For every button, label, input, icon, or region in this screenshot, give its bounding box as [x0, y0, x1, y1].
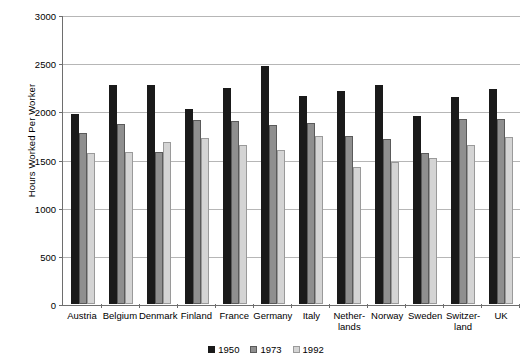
y-tick-label: 3000 — [35, 11, 56, 22]
x-tick-mark — [215, 304, 216, 308]
bar — [201, 138, 209, 304]
bar — [451, 97, 459, 304]
y-tick-mark — [59, 257, 63, 258]
bar-groups — [64, 16, 520, 304]
bar — [421, 153, 429, 304]
bar-group — [254, 16, 292, 304]
x-tick-mark — [253, 304, 254, 308]
x-tick-mark — [291, 304, 292, 308]
bar-group — [482, 16, 520, 304]
x-axis-label: Belgium — [101, 310, 139, 332]
bar-group — [330, 16, 368, 304]
legend-item: 1973 — [250, 344, 281, 355]
bar — [497, 119, 505, 304]
bar — [315, 136, 323, 304]
bar — [299, 96, 307, 304]
x-axis-labels: AustriaBelgiumDenmarkFinlandFranceGerman… — [63, 310, 520, 332]
bar — [307, 123, 315, 304]
legend-item: 1992 — [293, 344, 324, 355]
x-axis-label: Sweden — [406, 310, 444, 332]
y-tick-mark — [59, 209, 63, 210]
x-tick-mark — [405, 304, 406, 308]
x-axis-label: France — [215, 310, 253, 332]
x-tick-mark — [139, 304, 140, 308]
bar — [277, 150, 285, 304]
x-tick-mark — [177, 304, 178, 308]
bar — [87, 153, 95, 304]
bar — [429, 158, 437, 304]
bar — [193, 120, 201, 304]
series-0-swatch — [208, 346, 215, 353]
x-tick-mark — [101, 304, 102, 308]
x-axis-label: Norway — [368, 310, 406, 332]
bar — [261, 66, 269, 304]
y-tick-label: 500 — [40, 251, 56, 262]
y-tick-label: 2000 — [35, 107, 56, 118]
bar — [413, 116, 421, 304]
y-tick-mark — [59, 161, 63, 162]
bar — [71, 114, 79, 304]
series-1-swatch — [250, 346, 257, 353]
y-tick-label: 0 — [51, 300, 56, 311]
bar — [125, 152, 133, 304]
bar-chart-figure: Hours Worked Per Worker 0500100015002000… — [0, 0, 532, 364]
y-tick-mark — [59, 112, 63, 113]
bar — [353, 167, 361, 304]
x-tick-mark — [329, 304, 330, 308]
x-tick-mark — [481, 304, 482, 308]
bar-group — [140, 16, 178, 304]
bar — [467, 145, 475, 304]
bar — [383, 139, 391, 304]
bar — [109, 85, 117, 304]
y-tick-mark — [59, 16, 63, 17]
bar — [269, 125, 277, 304]
x-axis-label: Nether- lands — [330, 310, 368, 332]
x-tick-mark — [443, 304, 444, 308]
bar-group — [444, 16, 482, 304]
legend-label: 1973 — [260, 344, 281, 355]
x-axis-label: Austria — [63, 310, 101, 332]
x-axis-label: Italy — [292, 310, 330, 332]
chart-legend: 195019731992 — [0, 344, 532, 355]
bar — [239, 145, 247, 304]
bar — [505, 137, 513, 304]
bar-group — [292, 16, 330, 304]
bar — [223, 88, 231, 304]
x-tick-mark — [519, 304, 520, 308]
bar — [79, 133, 87, 304]
bar-group — [64, 16, 102, 304]
y-tick-label: 1500 — [35, 155, 56, 166]
x-axis-label: UK — [482, 310, 520, 332]
bar — [345, 136, 353, 304]
y-tick-label: 2500 — [35, 59, 56, 70]
series-2-swatch — [293, 346, 300, 353]
legend-item: 1950 — [208, 344, 239, 355]
bar-group — [406, 16, 444, 304]
y-tick-mark — [59, 64, 63, 65]
y-tick-label: 1000 — [35, 203, 56, 214]
bar — [147, 85, 155, 304]
y-tick-mark — [59, 305, 63, 306]
bar — [489, 89, 497, 304]
bar-group — [216, 16, 254, 304]
legend-label: 1950 — [218, 344, 239, 355]
x-axis-label: Denmark — [139, 310, 178, 332]
bar-group — [102, 16, 140, 304]
x-axis-label: Finland — [177, 310, 215, 332]
bar — [391, 162, 399, 304]
bar — [185, 109, 193, 304]
x-tick-mark — [367, 304, 368, 308]
bar — [231, 121, 239, 304]
bar-group — [368, 16, 406, 304]
legend-label: 1992 — [303, 344, 324, 355]
bar — [375, 85, 383, 304]
plot-area: 050010001500200025003000 — [62, 16, 520, 306]
bar-group — [178, 16, 216, 304]
x-axis-label: Switzer- land — [444, 310, 482, 332]
bar — [117, 124, 125, 304]
x-axis-label: Germany — [253, 310, 292, 332]
bar — [163, 142, 171, 304]
bar — [459, 119, 467, 304]
bar — [337, 91, 345, 304]
bar — [155, 152, 163, 304]
